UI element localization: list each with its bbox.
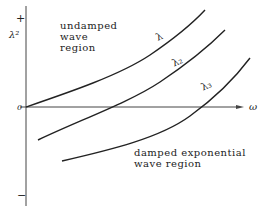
x-axis-arrow-icon — [236, 105, 244, 109]
undamped-line-3: region — [60, 42, 117, 53]
plot-canvas — [0, 0, 268, 214]
damped-line-2: wave region — [134, 158, 246, 169]
undamped-line-1: undamped — [60, 20, 117, 31]
damped-line-1: damped exponential — [134, 147, 246, 158]
undamped-line-2: wave — [60, 31, 117, 42]
y-axis-symbol: λ² — [9, 29, 19, 40]
y-axis-plus-label: + — [16, 13, 25, 24]
curve-lambda3 — [62, 58, 250, 161]
x-axis-symbol: ω — [249, 101, 257, 112]
y-axis-minus-label: − — [17, 190, 26, 201]
damped-region-label: damped exponential wave region — [134, 147, 246, 169]
undamped-region-label: undamped wave region — [60, 20, 117, 53]
origin-zero-label: 0 — [17, 102, 22, 113]
